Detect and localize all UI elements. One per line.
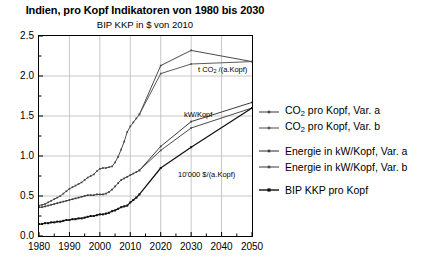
- y-tick-label: 0.0: [2, 231, 34, 241]
- legend-label: Energie in kW/Kopf, Var. b: [285, 162, 407, 173]
- chart-legend: CO2 pro Kopf, Var. aCO2 pro Kopf, Var. b…: [258, 104, 436, 198]
- y-tick-label: 1.0: [2, 151, 34, 161]
- legend-marker-icon: [258, 106, 280, 118]
- legend-label: Energie in kW/Kopf, Var. a: [285, 146, 407, 157]
- page-title: Indien, pro Kopf Indikatoren von 1980 bi…: [0, 4, 290, 16]
- legend-co2-var-a[interactable]: CO2 pro Kopf, Var. a: [258, 104, 436, 120]
- chart-page: Indien, pro Kopf Indikatoren von 1980 bi…: [0, 0, 436, 270]
- y-tick-label: 2.0: [2, 71, 34, 81]
- series-4: [39, 107, 252, 225]
- legend-marker-icon: [258, 122, 280, 134]
- legend-bip-kkp[interactable]: BIP KKP pro Kopf: [258, 182, 436, 198]
- y-tick-label: 2.5: [2, 31, 34, 41]
- legend-label: CO2 pro Kopf, Var. b: [285, 121, 380, 135]
- legend-marker-icon: [258, 161, 280, 173]
- y-tick-label: 1.5: [2, 111, 34, 121]
- series-2: [39, 102, 252, 209]
- legend-marker-icon: [258, 145, 280, 157]
- legend-co2-var-b[interactable]: CO2 pro Kopf, Var. b: [258, 120, 436, 136]
- legend-energie-var-a[interactable]: Energie in kW/Kopf, Var. a: [258, 143, 436, 159]
- legend-energie-var-b[interactable]: Energie in kW/Kopf, Var. b: [258, 159, 436, 175]
- annotation-bip: 10'000 $/(a.Kopf): [178, 171, 235, 179]
- x-tick-label: 2050: [232, 242, 272, 252]
- legend-label: BIP KKP pro Kopf: [285, 185, 368, 196]
- annotation-co2: t CO2 /(a.Kopf): [198, 66, 247, 75]
- legend-label: CO2 pro Kopf, Var. a: [285, 105, 380, 119]
- annotation-kw-kopf: kW/Kopf: [184, 111, 212, 119]
- y-tick-label: 0.5: [2, 191, 34, 201]
- page-subtitle: BIP KKP in $ von 2010: [0, 19, 290, 30]
- legend-marker-icon: [258, 184, 280, 196]
